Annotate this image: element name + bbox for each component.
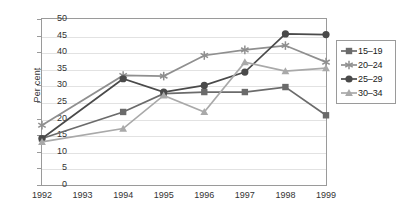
data-point-square (201, 89, 207, 95)
data-point-circle (345, 75, 352, 82)
data-point-circle (282, 30, 289, 37)
data-point-square (346, 48, 352, 54)
legend-item-label: 25–29 (358, 74, 383, 84)
x-axis-tick-label: 1995 (144, 190, 184, 200)
legend-marker-triangle-icon (340, 87, 358, 99)
legend: 15–1920–2425–2930–34 (336, 40, 396, 104)
data-point-asterisk (38, 121, 45, 130)
data-point-triangle (241, 58, 249, 65)
data-point-square (323, 112, 329, 118)
x-axis-tick-label: 1993 (63, 190, 103, 200)
x-axis-tick-label: 1997 (225, 190, 265, 200)
legend-item-30–34[interactable]: 30–34 (339, 86, 393, 100)
data-point-square (282, 84, 288, 90)
legend-item-25–29[interactable]: 25–29 (339, 72, 393, 86)
series-line-15–19 (42, 87, 326, 138)
legend-item-label: 15–19 (358, 46, 383, 56)
legend-marker-asterisk-icon (340, 59, 358, 71)
x-axis-tick-label: 1994 (103, 190, 143, 200)
data-point-circle (322, 31, 329, 38)
x-axis-tick-label: 1999 (306, 190, 346, 200)
legend-marker-circle-icon (340, 73, 358, 85)
legend-marker-square-icon (340, 45, 358, 57)
x-axis-tick-label: 1998 (265, 190, 305, 200)
data-point-square (242, 89, 248, 95)
x-axis-tick-label: 1992 (22, 190, 62, 200)
data-point-square (120, 109, 126, 115)
data-series-layer (41, 18, 327, 186)
x-axis-tick-label: 1996 (184, 190, 224, 200)
legend-item-label: 30–34 (358, 88, 383, 98)
data-point-circle (201, 82, 208, 89)
data-point-circle (241, 69, 248, 76)
line-chart: Per cent 05101520253035404550 1992199319… (0, 0, 400, 224)
data-point-circle (120, 75, 127, 82)
legend-item-label: 20–24 (358, 60, 383, 70)
legend-item-20–24[interactable]: 20–24 (339, 58, 393, 72)
legend-item-15–19[interactable]: 15–19 (339, 44, 393, 58)
